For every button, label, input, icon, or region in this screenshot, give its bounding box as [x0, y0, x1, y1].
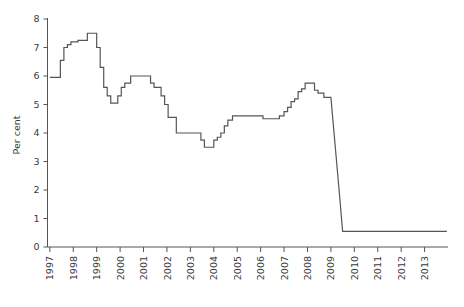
x-tick-label: 2009 — [325, 256, 336, 280]
y-tick-label: 1 — [33, 213, 39, 224]
x-tick-label: 2001 — [138, 256, 149, 280]
x-tick-label: 1998 — [68, 256, 79, 280]
y-tick-label: 5 — [33, 99, 39, 110]
y-tick-label: 7 — [33, 42, 39, 53]
x-tick-label: 2013 — [419, 256, 430, 280]
y-tick-label: 8 — [33, 13, 39, 24]
y-tick-label: 2 — [33, 184, 39, 195]
x-tick-label: 2002 — [162, 256, 173, 280]
y-axis-title: Per cent — [11, 115, 22, 154]
x-tick-label: 2000 — [115, 256, 126, 280]
x-tick-label: 2011 — [372, 256, 383, 280]
x-tick-label: 2003 — [185, 256, 196, 280]
x-tick-label: 1999 — [91, 256, 102, 280]
y-tick-label: 0 — [33, 241, 39, 252]
line-chart: 012345678 199719981999200020012002200320… — [0, 0, 464, 307]
y-tick-label: 3 — [33, 156, 39, 167]
x-tick-label: 2012 — [396, 256, 407, 280]
y-tick-label: 6 — [33, 70, 39, 81]
x-tick-label: 2010 — [349, 256, 360, 280]
x-tick-label: 2008 — [302, 256, 313, 280]
x-tick-label: 2005 — [232, 256, 243, 280]
x-tick-label: 2006 — [255, 256, 266, 280]
x-tick-label: 2004 — [208, 256, 219, 280]
y-tick-label: 4 — [33, 127, 39, 138]
chart-container: 012345678 199719981999200020012002200320… — [0, 0, 464, 307]
x-tick-label: 1997 — [44, 256, 55, 280]
x-tick-label: 2007 — [279, 256, 290, 280]
